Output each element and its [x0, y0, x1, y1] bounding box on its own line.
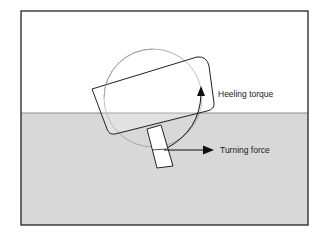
turning-force-label: Turning force — [220, 145, 270, 155]
boat-heeling-diagram: Heeling torque Turning force — [0, 0, 325, 236]
water-region — [21, 113, 308, 225]
heeling-torque-label: Heeling torque — [218, 89, 274, 99]
